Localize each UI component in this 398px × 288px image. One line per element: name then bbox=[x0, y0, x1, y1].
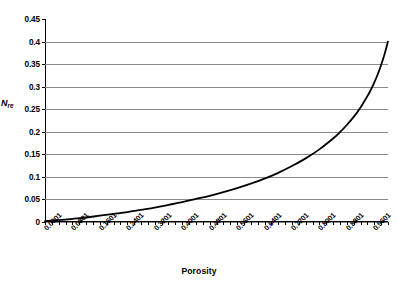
x-tick-mark bbox=[251, 222, 252, 225]
x-tick-mark bbox=[367, 222, 368, 225]
chart-container: Nre 0.450.40.350.30.250.20.150.10.050 0.… bbox=[0, 0, 398, 288]
x-tick-mark bbox=[306, 222, 307, 225]
x-tick-mark bbox=[313, 222, 314, 225]
y-tick-label: 0 bbox=[36, 218, 40, 227]
y-tick-label: 0.35 bbox=[24, 60, 40, 69]
x-tick-mark bbox=[285, 222, 286, 225]
y-tick-label: 0.15 bbox=[24, 150, 40, 159]
x-tick-mark bbox=[230, 222, 231, 225]
x-tick-mark bbox=[148, 222, 149, 225]
x-tick-mark bbox=[93, 222, 94, 225]
y-tick-label: 0.45 bbox=[24, 15, 40, 24]
y-axis-title-base: N bbox=[1, 98, 8, 108]
x-tick-mark bbox=[66, 222, 67, 225]
y-tick-label: 0.1 bbox=[29, 172, 40, 181]
data-curve bbox=[45, 19, 388, 222]
x-axis-title: Porosity bbox=[0, 266, 398, 276]
x-tick-mark bbox=[340, 222, 341, 225]
x-tick-mark bbox=[196, 222, 197, 225]
y-axis-title-subscript: re bbox=[8, 102, 14, 109]
x-tick-mark bbox=[59, 222, 60, 225]
x-tick-mark bbox=[223, 222, 224, 225]
x-tick-mark bbox=[258, 222, 259, 225]
x-tick-mark bbox=[278, 222, 279, 225]
x-tick-mark bbox=[203, 222, 204, 225]
y-tick-label: 0.2 bbox=[29, 127, 40, 136]
x-tick-mark bbox=[86, 222, 87, 225]
x-tick-mark bbox=[388, 222, 389, 225]
plot-area bbox=[45, 19, 388, 222]
x-tick-mark bbox=[120, 222, 121, 225]
x-tick-mark bbox=[361, 222, 362, 225]
y-axis-title: Nre bbox=[1, 98, 14, 108]
x-tick-mark bbox=[114, 222, 115, 225]
y-tick-label: 0.3 bbox=[29, 82, 40, 91]
x-tick-mark bbox=[141, 222, 142, 225]
y-tick-label: 0.4 bbox=[29, 37, 40, 46]
x-tick-mark bbox=[333, 222, 334, 225]
x-tick-mark bbox=[175, 222, 176, 225]
x-tick-mark bbox=[168, 222, 169, 225]
y-tick-label: 0.25 bbox=[24, 105, 40, 114]
y-tick-label: 0.05 bbox=[24, 195, 40, 204]
